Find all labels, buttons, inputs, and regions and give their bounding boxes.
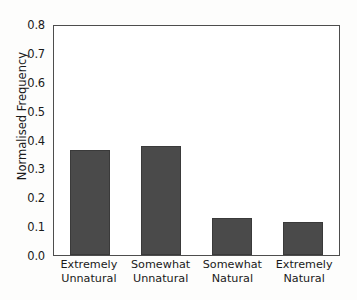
bar — [212, 218, 252, 255]
bar — [283, 222, 323, 255]
x-tick-label: SomewhatNatural — [197, 258, 269, 285]
y-axis-title: Normalised Frequency — [15, 26, 29, 206]
y-tick-label: 0.2 — [27, 191, 45, 205]
x-axis-tick-labels: ExtremelyUnnaturalSomewhatUnnaturalSomew… — [53, 258, 340, 285]
plot-area — [53, 25, 340, 256]
y-tick-label: 0.5 — [27, 105, 45, 119]
y-tick-label: 0.1 — [27, 220, 45, 234]
y-tick-label: 0.4 — [27, 134, 45, 148]
y-tick-label: 0.0 — [27, 249, 45, 263]
x-tick-label: ExtremelyNatural — [268, 258, 340, 285]
y-tick-label: 0.7 — [27, 47, 45, 61]
x-tick-label: SomewhatUnnatural — [125, 258, 197, 285]
bar-chart-figure: 0.00.10.20.30.40.50.60.70.8 Normalised F… — [0, 0, 357, 300]
x-tick-label: ExtremelyUnnatural — [53, 258, 125, 285]
bar-series — [54, 26, 339, 255]
bar — [70, 150, 110, 255]
y-tick-label: 0.3 — [27, 162, 45, 176]
y-tick-label: 0.8 — [27, 18, 45, 32]
y-tick-label: 0.6 — [27, 76, 45, 90]
bar — [141, 146, 181, 255]
